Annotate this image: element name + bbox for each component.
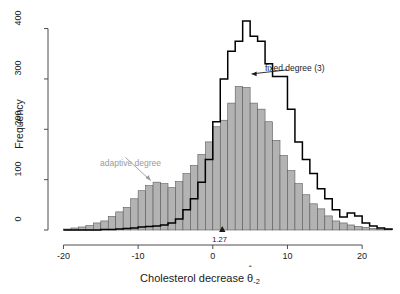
histogram-bar: [190, 166, 197, 230]
histogram-bar: [153, 182, 160, 230]
histogram-bar: [265, 122, 272, 230]
histogram-bar: [213, 127, 220, 230]
histogram-bar: [347, 225, 354, 230]
histogram-bar: [123, 207, 130, 230]
hat-accent-icon: ˆ: [249, 265, 252, 274]
histogram-figure: Frequency Cholesterol decrease ˆθ-2 fixe…: [0, 0, 400, 294]
histogram-bar: [243, 88, 250, 230]
x-tick-label: 20: [342, 251, 382, 261]
y-tick-label: 0: [13, 201, 23, 237]
x-axis-label-text: Cholesterol decrease: [140, 272, 244, 284]
histogram-bar: [175, 182, 182, 230]
histogram-bar: [377, 229, 384, 230]
histogram-bar: [355, 226, 362, 230]
y-tick-label: 200: [13, 100, 23, 136]
histogram-bar: [332, 221, 339, 230]
x-tick-label: 10: [267, 251, 307, 261]
histogram-bar: [108, 216, 115, 230]
histogram-bar: [295, 184, 302, 230]
histogram-bar: [287, 171, 294, 230]
histogram-bar: [93, 223, 100, 230]
histogram-bar: [228, 103, 235, 230]
fixed-degree-arrow-head: [252, 72, 257, 77]
histogram-bar: [138, 191, 145, 230]
y-tick-label: 400: [13, 0, 23, 36]
annotation-fixed-degree: fixed degree (3): [265, 63, 325, 73]
annotation-adaptive-degree: adaptive degree: [100, 158, 161, 168]
histogram-bar: [258, 109, 265, 230]
annotation-mean-value: 1.27: [212, 235, 227, 244]
histogram-bar: [101, 221, 108, 230]
histogram-bar: [310, 204, 317, 230]
theta-subscript: -2: [253, 277, 260, 286]
histogram-bar: [250, 103, 257, 230]
x-axis-label: Cholesterol decrease ˆθ-2: [0, 272, 400, 286]
histogram-bar: [131, 199, 138, 230]
x-tick-label: -10: [118, 251, 158, 261]
histogram-bar: [273, 140, 280, 230]
histogram-bar: [280, 155, 287, 230]
theta-hat-symbol: ˆθ: [247, 272, 253, 284]
histogram-bar: [317, 209, 324, 230]
histogram-bar: [183, 174, 190, 230]
x-tick-label: 0: [193, 251, 233, 261]
histogram-bar: [198, 154, 205, 230]
chart-canvas: [0, 0, 400, 294]
histogram-bar: [161, 184, 168, 230]
histogram-bar: [325, 216, 332, 230]
histogram-bar: [302, 195, 309, 230]
histogram-bar: [116, 212, 123, 230]
histogram-bar: [370, 228, 377, 230]
y-tick-label: 100: [13, 151, 23, 187]
histogram-bar: [205, 142, 212, 230]
histogram-bar: [362, 227, 369, 230]
histogram-bar: [146, 186, 153, 230]
histogram-bar: [340, 223, 347, 230]
x-tick-label: -20: [43, 251, 83, 261]
y-tick-label: 300: [13, 50, 23, 86]
histogram-bar: [220, 120, 227, 230]
histogram-bar: [235, 86, 242, 230]
